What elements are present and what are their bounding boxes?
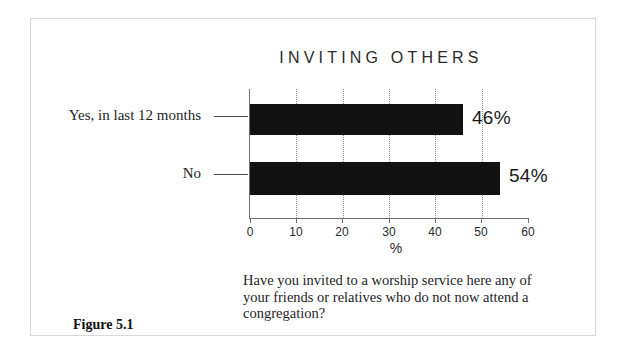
x-tick-label-50: 50 <box>466 225 496 239</box>
bar-yes <box>250 104 463 135</box>
question-line-2: your friends or relatives who do not now… <box>243 289 573 306</box>
x-axis-title: % <box>381 240 411 256</box>
x-tick-label-10: 10 <box>281 225 311 239</box>
x-tick-10 <box>296 218 297 223</box>
category-label-no: No <box>51 165 201 182</box>
bar-no <box>250 162 500 195</box>
x-tick-label-40: 40 <box>420 225 450 239</box>
x-tick-20 <box>342 218 343 223</box>
chart-title: INVITING OTHERS <box>221 49 541 67</box>
bar-value-yes: 46% <box>472 107 511 129</box>
x-tick-label-0: 0 <box>235 225 265 239</box>
x-tick-60 <box>528 218 529 223</box>
category-label-yes: Yes, in last 12 months <box>51 107 201 124</box>
x-tick-0 <box>250 218 251 223</box>
x-tick-label-20: 20 <box>327 225 357 239</box>
figure-frame: INVITING OTHERS Yes, in last 12 months N… <box>30 18 596 336</box>
category-tick-no <box>214 174 248 175</box>
question-caption: Have you invited to a worship service he… <box>243 272 573 322</box>
category-tick-yes <box>214 116 248 117</box>
x-tick-50 <box>481 218 482 223</box>
x-tick-30 <box>389 218 390 223</box>
question-line-3: congregation? <box>243 305 573 322</box>
plot-area: 46% 54% <box>250 89 528 218</box>
x-tick-40 <box>435 218 436 223</box>
question-line-1: Have you invited to a worship service he… <box>243 272 573 289</box>
bar-value-no: 54% <box>509 165 548 187</box>
x-tick-label-60: 60 <box>513 225 543 239</box>
x-tick-label-30: 30 <box>374 225 404 239</box>
figure-label: Figure 5.1 <box>73 317 133 333</box>
